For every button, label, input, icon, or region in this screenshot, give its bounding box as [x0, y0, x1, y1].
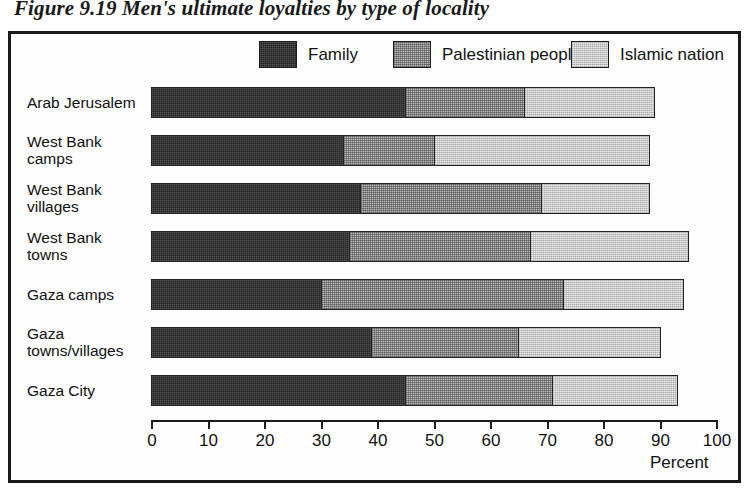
bar-row: West Banktowns [11, 228, 744, 264]
category-label-arab-jerusalem: Arab Jerusalem [27, 84, 151, 120]
axis-tick [660, 420, 662, 429]
legend-label-islamic-nation: Islamic nation [620, 46, 724, 63]
category-label-west-bank-camps: West Bankcamps [27, 132, 151, 168]
axis-tick-label: 70 [538, 431, 557, 451]
bar-segment-palestinian-people [405, 87, 525, 118]
bar-segment-islamic-nation [518, 327, 661, 358]
bar-row: West Bankvillages [11, 180, 744, 216]
bar-row: Gaza camps [11, 276, 744, 312]
category-label-line: towns [27, 246, 151, 263]
category-label-line: West Bank [27, 133, 151, 150]
bar-segment-family [151, 279, 322, 310]
axis-tick [377, 420, 379, 429]
bar-segment-family [151, 231, 350, 262]
legend-entry-family: Family [259, 39, 358, 69]
axis-tick-label: 10 [199, 431, 218, 451]
axis-tick [208, 420, 210, 429]
bar-segment-palestinian-people [360, 183, 542, 214]
bar-segment-palestinian-people [343, 135, 435, 166]
category-label-west-bank-towns: West Banktowns [27, 228, 151, 264]
category-label-line: villages [27, 198, 151, 215]
axis-tick [716, 420, 718, 429]
axis-tick-label: 0 [147, 431, 156, 451]
axis-tick-label: 20 [256, 431, 275, 451]
chart-legend: Family Palestinian people Islamic nation [11, 34, 744, 76]
bar-segment-palestinian-people [349, 231, 531, 262]
category-label-line: West Bank [27, 181, 151, 198]
bar-segment-palestinian-people [405, 375, 553, 406]
bar-segment-islamic-nation [434, 135, 650, 166]
bar-row: Gaza City [11, 372, 744, 408]
axis-tick-label: 90 [651, 431, 670, 451]
bar-segment-family [151, 135, 345, 166]
figure-title: Figure 9.19 Men's ultimate loyalties by … [14, 0, 489, 21]
axis-tick [151, 420, 153, 429]
legend-swatch-family-icon [259, 41, 297, 68]
bar-segment-islamic-nation [524, 87, 655, 118]
bar-segment-islamic-nation [552, 375, 678, 406]
stacked-bar [151, 87, 654, 118]
axis-unit-label: Percent [650, 453, 709, 473]
category-label-west-bank-villages: West Bankvillages [27, 180, 151, 216]
stacked-bar [151, 327, 660, 358]
stacked-bar [151, 135, 648, 166]
axis-tick-label: 100 [703, 431, 731, 451]
category-label-line: Gaza camps [27, 286, 151, 303]
category-label-line: Gaza [27, 325, 151, 342]
axis-tick-label: 50 [425, 431, 444, 451]
legend-label-palestinian-people: Palestinian people [442, 46, 581, 63]
stacked-bar [151, 375, 676, 406]
legend-swatch-islamic-nation-icon [571, 41, 609, 68]
axis-tick [547, 420, 549, 429]
category-label-gaza-towns-villages: Gazatowns/villages [27, 324, 151, 360]
legend-swatch-palestinian-people-icon [393, 41, 431, 68]
category-label-line: Gaza City [27, 382, 151, 399]
bar-segment-palestinian-people [371, 327, 519, 358]
bar-segment-palestinian-people [321, 279, 565, 310]
bar-segment-family [151, 375, 407, 406]
axis-tick-label: 40 [369, 431, 388, 451]
legend-entry-islamic-nation: Islamic nation [571, 39, 724, 69]
bar-segment-islamic-nation [530, 231, 690, 262]
category-label-line: towns/villages [27, 342, 151, 359]
axis-tick [603, 420, 605, 429]
bar-segment-family [151, 183, 362, 214]
axis-tick-label: 80 [595, 431, 614, 451]
axis-tick [264, 420, 266, 429]
axis-tick [434, 420, 436, 429]
bar-segment-islamic-nation [541, 183, 650, 214]
category-label-line: Arab Jerusalem [27, 94, 151, 111]
bar-row: West Bankcamps [11, 132, 744, 168]
legend-label-family: Family [308, 46, 358, 63]
axis-tick [490, 420, 492, 429]
bar-segment-family [151, 87, 407, 118]
category-label-gaza-city: Gaza City [27, 372, 151, 408]
bar-segment-islamic-nation [563, 279, 683, 310]
legend-entry-palestinian-people: Palestinian people [393, 39, 581, 69]
axis-tick-label: 60 [482, 431, 501, 451]
stacked-bar [151, 231, 688, 262]
bar-row: Arab Jerusalem [11, 84, 744, 120]
axis-tick-label: 30 [312, 431, 331, 451]
bar-row: Gazatowns/villages [11, 324, 744, 360]
category-label-gaza-camps: Gaza camps [27, 276, 151, 312]
bar-segment-family [151, 327, 373, 358]
stacked-bar [151, 279, 682, 310]
stacked-bar [151, 183, 648, 214]
category-label-line: West Bank [27, 229, 151, 246]
axis-tick [321, 420, 323, 429]
chart-frame: Family Palestinian people Islamic nation… [8, 31, 741, 483]
x-axis: 0102030405060708090100Percent [11, 420, 744, 480]
category-label-line: camps [27, 150, 151, 167]
